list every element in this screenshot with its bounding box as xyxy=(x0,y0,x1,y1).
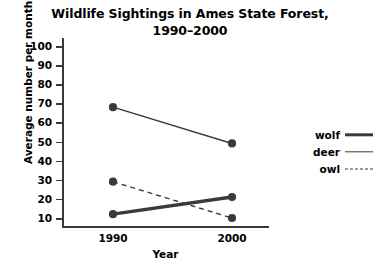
series-deer xyxy=(109,103,236,148)
y-axis-tick xyxy=(56,218,64,220)
series-line xyxy=(113,107,232,143)
y-axis-tick xyxy=(56,122,64,124)
legend-item-label: owl xyxy=(319,163,340,175)
y-axis-tick xyxy=(56,180,64,182)
legend-item-deer[interactable]: deer xyxy=(303,143,373,160)
y-axis-tick xyxy=(56,84,64,86)
x-axis-tick-label: 1990 xyxy=(98,232,127,244)
y-axis-tick xyxy=(56,103,64,105)
data-point xyxy=(228,214,236,222)
chart-title: Wildlife Sightings in Ames State Forest,… xyxy=(40,6,340,40)
x-axis-line xyxy=(62,226,269,228)
y-axis-tick xyxy=(56,199,64,201)
legend-swatch-dashed xyxy=(345,164,373,174)
chart-legend: wolfdeerowl xyxy=(303,126,373,177)
series-wolf xyxy=(109,193,236,218)
legend-item-wolf[interactable]: wolf xyxy=(303,126,373,143)
legend-swatch-solid-thin xyxy=(345,147,373,157)
data-point xyxy=(109,178,117,186)
chart-title-line-1: Wildlife Sightings in Ames State Forest, xyxy=(40,6,340,23)
legend-item-label: deer xyxy=(313,146,340,158)
line-chart: Wildlife Sightings in Ames State Forest,… xyxy=(0,0,376,271)
legend-item-owl[interactable]: owl xyxy=(303,160,373,177)
y-axis-title: Average number per month xyxy=(22,4,34,164)
y-axis-tick-label: 30 xyxy=(18,174,52,186)
legend-item-label: wolf xyxy=(315,129,340,141)
data-point xyxy=(228,139,236,147)
y-axis-tick xyxy=(56,65,64,67)
x-axis-title: Year xyxy=(63,248,268,260)
y-axis-tick-label: 10 xyxy=(18,212,52,224)
y-axis-tick xyxy=(56,161,64,163)
series-owl xyxy=(109,178,236,223)
y-axis-tick-label: 20 xyxy=(18,193,52,205)
data-point xyxy=(109,210,117,218)
x-axis-tick-label: 2000 xyxy=(217,232,246,244)
data-point xyxy=(109,103,117,111)
y-axis-tick xyxy=(56,142,64,144)
legend-swatch-solid-thick xyxy=(345,130,373,140)
series-line xyxy=(113,182,232,218)
data-point xyxy=(228,193,236,201)
series-line xyxy=(113,197,232,214)
chart-title-line-2: 1990–2000 xyxy=(40,23,340,40)
y-axis-tick xyxy=(56,46,64,48)
